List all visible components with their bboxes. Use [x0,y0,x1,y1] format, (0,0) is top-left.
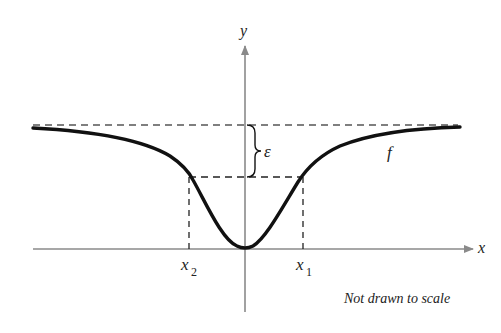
x2-label-main: x [180,255,189,274]
epsilon-brace [247,125,261,177]
function-curve [33,127,460,248]
x1-label: x 1 [295,255,312,279]
not-to-scale-caption: Not drawn to scale [343,291,450,306]
x1-label-subscript: 1 [306,265,312,279]
x-axis-label: x [477,239,485,256]
curve-label-f: f [387,143,394,162]
x2-label: x 2 [180,255,197,279]
diagram-canvas: y x ε f x 2 x 1 Not drawn to scale [0,0,501,333]
x1-label-main: x [295,255,304,274]
limit-diagram: y x ε f x 2 x 1 Not drawn to scale [0,0,501,333]
x2-label-subscript: 2 [191,265,197,279]
y-axis-label: y [238,22,248,40]
epsilon-label: ε [264,142,271,161]
